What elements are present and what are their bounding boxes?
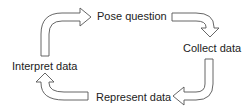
curved-arrow-down-icon [172,13,219,37]
stage-label-pose-question: Pose question [97,10,167,22]
curved-arrow-up-icon [36,73,88,100]
curved-arrow-right-icon [41,8,91,56]
stage-label-interpret-data: Interpret data [12,60,77,72]
stage-label-collect-data: Collect data [183,42,241,54]
stage-label-represent-data: Represent data [96,91,171,103]
curved-arrow-left-icon [173,59,213,105]
